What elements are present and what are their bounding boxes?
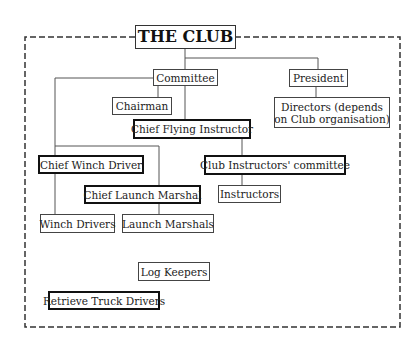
- node-winch-drivers: Winch Drivers: [40, 214, 115, 233]
- node-chief-launch-marshal: Chief Launch Marshal: [84, 185, 201, 204]
- node-chief-flying-instructor: Chief Flying Instructor: [133, 119, 251, 139]
- club-org-chart: THE CLUB Committee President Chairman Di…: [0, 0, 419, 347]
- node-log-keepers: Log Keepers: [138, 262, 210, 281]
- node-instructors: Instructors: [218, 185, 281, 203]
- node-retrieve-truck-drivers: Retrieve Truck Drivers: [48, 291, 160, 310]
- node-launch-marshals: Launch Marshals: [122, 214, 214, 233]
- node-chief-winch-driver: Chief Winch Driver: [38, 155, 144, 174]
- node-committee: Committee: [153, 69, 218, 86]
- node-directors: Directors (depends on Club organisation): [274, 97, 390, 128]
- directors-line-1: Directors (depends: [281, 101, 383, 113]
- node-chairman: Chairman: [112, 97, 172, 115]
- node-president: President: [289, 69, 348, 87]
- directors-line-2: on Club organisation): [274, 113, 390, 125]
- node-the-club: THE CLUB: [135, 25, 236, 49]
- node-club-instructors-committee: Club Instructors' committee: [204, 155, 346, 175]
